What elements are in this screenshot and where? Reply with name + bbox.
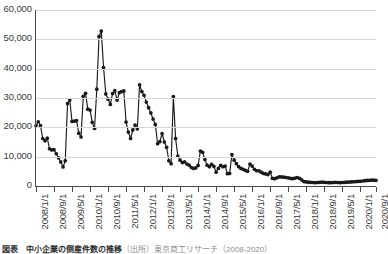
x-axis-tick-label: 2012/1/1 bbox=[148, 194, 158, 229]
data-point-marker bbox=[45, 136, 49, 140]
x-axis-tick-label: 2020/1/1 bbox=[364, 194, 374, 229]
y-axis-tick-label: 10,000 bbox=[4, 151, 32, 161]
data-point-marker bbox=[153, 123, 157, 127]
gridline bbox=[36, 39, 376, 40]
data-point-marker bbox=[250, 164, 254, 168]
x-axis-tick bbox=[376, 187, 377, 192]
x-axis-tick bbox=[126, 187, 127, 192]
x-axis-tick bbox=[198, 187, 199, 192]
caption-source: （出所）東京商工リサーチ（2008-2020） bbox=[122, 245, 272, 254]
x-axis-tick-label: 2010/1/1 bbox=[94, 194, 104, 229]
data-point-marker bbox=[174, 137, 178, 141]
x-axis-tick-label: 2014/1/1 bbox=[202, 194, 212, 229]
data-point-marker bbox=[99, 29, 103, 33]
x-axis-tick bbox=[216, 187, 217, 192]
x-axis-tick bbox=[360, 187, 361, 192]
x-axis-tick bbox=[36, 187, 37, 192]
x-axis-tick bbox=[252, 187, 253, 192]
data-point-marker bbox=[268, 170, 272, 174]
chart-caption: 図表 中小企業の倒産件数の推移（出所）東京商工リサーチ（2008-2020） bbox=[2, 245, 386, 254]
data-point-marker bbox=[217, 167, 221, 171]
x-axis-tick bbox=[72, 187, 73, 192]
data-point-marker bbox=[75, 119, 79, 123]
x-axis-tick-label: 2010/9/1 bbox=[112, 194, 122, 229]
x-axis-tick bbox=[180, 187, 181, 192]
data-point-marker bbox=[126, 130, 130, 134]
data-point-marker bbox=[228, 172, 232, 176]
data-point-marker bbox=[246, 169, 250, 173]
data-point-marker bbox=[142, 94, 146, 98]
data-point-marker bbox=[167, 159, 171, 163]
y-axis-tick-label: 40,000 bbox=[4, 63, 32, 73]
x-axis-tick bbox=[90, 187, 91, 192]
data-point-marker bbox=[95, 87, 99, 91]
data-point-marker bbox=[113, 89, 117, 93]
data-point-marker bbox=[129, 137, 133, 141]
data-point-marker bbox=[138, 83, 142, 87]
x-axis-tick-label: 2009/5/1 bbox=[76, 194, 86, 229]
y-axis-tick-label: 0 bbox=[27, 180, 32, 190]
x-axis-tick-label: 2019/5/1 bbox=[346, 194, 356, 229]
data-point-marker bbox=[214, 170, 218, 174]
data-point-marker bbox=[203, 158, 207, 162]
data-point-marker bbox=[149, 111, 153, 115]
chart-container: 60,00050,00040,00030,00020,00010,0000 20… bbox=[0, 0, 388, 254]
data-point-marker bbox=[201, 150, 205, 154]
x-axis-tick-label: 2012/9/1 bbox=[166, 194, 176, 229]
gridline bbox=[36, 10, 376, 11]
data-point-marker bbox=[108, 103, 112, 107]
data-point-marker bbox=[374, 178, 378, 182]
data-point-marker bbox=[223, 164, 227, 168]
data-point-marker bbox=[66, 102, 70, 106]
data-point-marker bbox=[131, 128, 135, 132]
data-point-marker bbox=[36, 120, 40, 124]
x-axis-tick-label: 2017/5/1 bbox=[292, 194, 302, 229]
x-axis-tick bbox=[306, 187, 307, 192]
data-point-marker bbox=[147, 106, 151, 110]
data-point-marker bbox=[77, 131, 81, 135]
x-axis-tick bbox=[234, 187, 235, 192]
x-axis-tick-label: 2008/9/1 bbox=[58, 194, 68, 229]
y-axis-tick-label: 30,000 bbox=[4, 92, 32, 102]
data-point-marker bbox=[54, 152, 58, 156]
x-axis-tick bbox=[54, 187, 55, 192]
plot-area bbox=[36, 10, 376, 186]
data-point-marker bbox=[196, 164, 200, 168]
x-axis-tick-label: 2008/1/1 bbox=[40, 194, 50, 229]
data-point-marker bbox=[79, 135, 83, 139]
data-point-marker bbox=[144, 100, 148, 104]
x-axis-tick bbox=[162, 187, 163, 192]
data-point-marker bbox=[88, 108, 92, 112]
x-axis-tick-label: 2018/9/1 bbox=[328, 194, 338, 229]
data-point-marker bbox=[169, 162, 173, 166]
caption-body: 中小企業の倒産件数の推移 bbox=[18, 245, 122, 254]
data-point-marker bbox=[165, 145, 169, 149]
x-axis-tick-label: 2016/9/1 bbox=[274, 194, 284, 229]
x-axis-tick-label: 2016/1/1 bbox=[256, 194, 266, 229]
data-point-marker bbox=[97, 35, 101, 39]
x-axis-tick bbox=[108, 187, 109, 192]
data-point-marker bbox=[90, 121, 94, 125]
data-point-marker bbox=[160, 132, 164, 136]
data-point-marker bbox=[151, 117, 155, 121]
data-point-marker bbox=[124, 120, 128, 124]
data-point-marker bbox=[104, 92, 108, 96]
caption-prefix: 図表 bbox=[2, 245, 18, 254]
gridline bbox=[36, 157, 376, 158]
x-axis-tick-label: 2018/1/1 bbox=[310, 194, 320, 229]
x-axis-tick-label: 2014/9/1 bbox=[220, 194, 230, 229]
x-axis-tick-label: 2011/5/1 bbox=[130, 194, 140, 229]
x-axis-tick bbox=[342, 187, 343, 192]
y-axis-tick-label: 50,000 bbox=[4, 33, 32, 43]
x-axis-tick bbox=[324, 187, 325, 192]
data-point-marker bbox=[52, 148, 56, 152]
y-axis-labels: 60,00050,00040,00030,00020,00010,0000 bbox=[0, 0, 34, 200]
data-point-marker bbox=[212, 165, 216, 169]
data-point-marker bbox=[111, 92, 115, 96]
data-point-marker bbox=[63, 159, 67, 163]
data-point-marker bbox=[59, 160, 63, 164]
data-point-marker bbox=[235, 162, 239, 166]
gridline bbox=[36, 127, 376, 128]
gridline bbox=[36, 69, 376, 70]
data-point-marker bbox=[158, 140, 162, 144]
